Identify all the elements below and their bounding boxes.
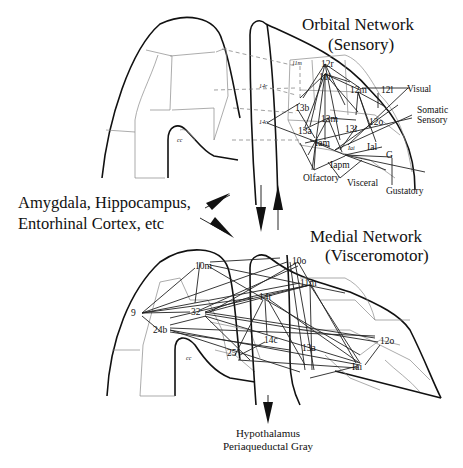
cc-label-top: cc <box>177 137 183 143</box>
medial-title: Medial Network (Visceromotor) <box>310 227 429 265</box>
area-12r: 12r <box>321 59 335 69</box>
area-12l: 12l <box>381 85 394 95</box>
orbital-title: Orbital Network (Sensory) <box>302 15 414 54</box>
area-Iai: Iai <box>347 145 355 151</box>
area-11m-dashed: 11m <box>292 60 303 66</box>
arrow-up-icon <box>273 185 283 210</box>
input-visual: Visual <box>407 84 432 94</box>
area-G: G <box>386 150 393 160</box>
medial-title-line1: Medial Network <box>310 227 422 246</box>
input-sensory: Sensory <box>417 115 448 125</box>
arrow-to-medial-icon <box>210 217 234 238</box>
medial-connections <box>142 258 380 378</box>
output-label: Hypothalamus Periaqueductal Gray <box>223 427 314 452</box>
area-25: 25 <box>227 348 237 358</box>
area-Iai: Iai <box>352 362 362 372</box>
area-32: 32 <box>191 307 201 317</box>
cc-label-bottom: cc <box>186 355 192 361</box>
output-label-line2: Periaqueductal Gray <box>223 440 314 452</box>
input-olfactory: Olfactory <box>303 173 340 183</box>
area-14c: 14c <box>264 335 278 345</box>
area-13a: 13a <box>302 343 317 353</box>
area-13m: 13m <box>321 114 339 124</box>
area-9: 9 <box>131 308 136 318</box>
input-somatic: Somatic <box>417 105 448 115</box>
area-12o: 12o <box>369 117 384 127</box>
area-Ial: Ial <box>367 142 377 152</box>
amygdala-arrows <box>200 193 234 238</box>
area-Iapm: Iapm <box>330 160 350 170</box>
side-label-line1: Amygdala, Hippocampus, <box>18 193 191 212</box>
arrow-to-orbital-icon <box>206 193 230 210</box>
arrow-down-icon <box>256 207 266 232</box>
area-14r: 14r <box>259 292 273 302</box>
medial-wall-outline: cc <box>107 250 260 396</box>
area-10m: 10m <box>195 261 213 271</box>
area-13l: 13l <box>345 124 358 134</box>
area-13a: 13a <box>298 126 313 136</box>
side-label: Amygdala, Hippocampus, Entorhinal Cortex… <box>18 193 191 233</box>
side-label-line2: Entorhinal Cortex, etc <box>18 214 164 233</box>
inter-network-arrows <box>256 185 283 232</box>
orbital-title-line2: (Sensory) <box>328 35 394 54</box>
medial-surface-outline <box>250 255 441 405</box>
medial-title-line2: (Visceromotor) <box>325 246 429 265</box>
arrow-down-output-icon <box>263 402 273 424</box>
brain-network-diagram: cc <box>0 0 463 468</box>
orbital-title-line1: Orbital Network <box>302 15 414 34</box>
input-visceral: Visceral <box>347 178 378 188</box>
area-24b: 24b <box>153 325 168 335</box>
area-10o: 10o <box>292 256 307 266</box>
orbital-medial-wall-outline: cc <box>102 17 240 178</box>
area-11l: 11l <box>319 72 331 82</box>
output-arrow <box>263 395 273 424</box>
output-label-line1: Hypothalamus <box>236 427 300 439</box>
area-14r-dashed: 14r <box>259 83 268 89</box>
area-11m: 11m <box>300 278 317 288</box>
area-12m: 12m <box>350 85 368 95</box>
area-12o: 12o <box>380 336 395 346</box>
area-14c-dashed: 14c <box>259 119 268 125</box>
area-13b: 13b <box>295 103 310 113</box>
area-Iam: Iam <box>315 138 330 148</box>
input-gustatory: Gustatory <box>386 186 424 196</box>
